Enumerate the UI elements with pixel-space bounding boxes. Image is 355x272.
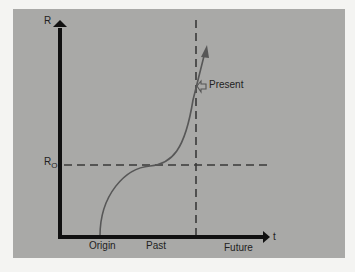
y-axis-label: R [44, 16, 51, 26]
present-label: Present [209, 80, 243, 90]
growth-curve [100, 52, 205, 236]
r-vs-t-diagram [0, 0, 355, 272]
x-tick-past: Past [146, 241, 166, 251]
x-tick-origin: Origin [89, 241, 116, 251]
curve-arrowhead-icon [201, 45, 209, 58]
x-axis-label: t [273, 232, 276, 242]
y-axis-arrow-icon [53, 20, 67, 27]
x-axis-arrow-icon [263, 231, 270, 243]
present-pointer-icon [197, 81, 206, 92]
r0-label: RO [44, 157, 57, 170]
r0-label-subscript: O [51, 161, 57, 170]
x-tick-future: Future [224, 243, 253, 253]
